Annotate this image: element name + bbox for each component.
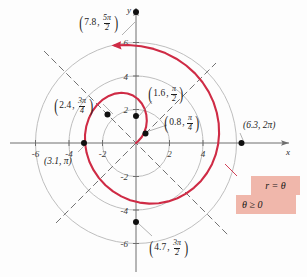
polar-plot-canvas: -6 -4 -2 2 4 6 4 2 -2 -4 -6 x y bbox=[0, 0, 307, 277]
fraction-numerator: 3π bbox=[77, 97, 87, 106]
label-theta-fraction: 5π 2 bbox=[101, 14, 113, 32]
point-0-8-pi-over-4 bbox=[143, 131, 149, 137]
equation-callout: r = θ θ ≥ 0 bbox=[236, 176, 300, 214]
point-label-3-1-pi: (3.1, π) bbox=[44, 157, 72, 167]
point-1-6-pi-over-2 bbox=[133, 113, 139, 119]
tick-label-y-4: 4 bbox=[124, 72, 129, 82]
fraction-denominator: 4 bbox=[79, 106, 85, 116]
label-open-paren: ( bbox=[148, 87, 152, 101]
label-r-value: 0.8 bbox=[169, 118, 182, 128]
callout-condition: θ ≥ 0 bbox=[236, 195, 296, 214]
label-close-paren: ) bbox=[195, 116, 199, 130]
point-label-0-8-pi-over-4: ( 0.8 , π 4 ) bbox=[163, 114, 200, 132]
tick-label-x--6: -6 bbox=[32, 149, 40, 159]
x-axis-label: x bbox=[285, 147, 290, 157]
label-theta-fraction: π 4 bbox=[186, 114, 194, 132]
label-r-value: 4.7 bbox=[154, 243, 167, 253]
point-label-7-8-5pi-over-2: ( 7.8 , 5π 2 ) bbox=[78, 14, 119, 32]
point-3-1-pi bbox=[81, 140, 87, 146]
label-theta-fraction: π 2 bbox=[170, 85, 178, 103]
tick-label-y--4: -4 bbox=[121, 206, 129, 216]
point-7-8-5pi-over-2 bbox=[133, 9, 139, 15]
point-label-4-7-3pi-over-2: ( 4.7 , 3π 2 ) bbox=[148, 239, 189, 257]
label-close-paren: ) bbox=[114, 16, 118, 30]
label-close-paren: ) bbox=[184, 241, 188, 255]
label-text: (6.3, 2π) bbox=[243, 121, 275, 131]
tick-label-y--6: -6 bbox=[121, 239, 129, 249]
fraction-numerator: π bbox=[171, 85, 177, 94]
fraction-denominator: 2 bbox=[174, 248, 180, 258]
label-text: (3.1, π) bbox=[44, 157, 72, 167]
label-close-paren: ) bbox=[89, 99, 93, 113]
polar-spiral-figure: -6 -4 -2 2 4 6 4 2 -2 -4 -6 x y bbox=[0, 0, 307, 277]
fraction-numerator: π bbox=[187, 114, 193, 123]
point-6-3-2pi bbox=[239, 140, 245, 146]
point-4-7-3pi-over-2 bbox=[133, 219, 139, 225]
point-label-1-6-pi-over-2: ( 1.6 , π 2 ) bbox=[147, 85, 184, 103]
tick-label-y-2: 2 bbox=[124, 105, 129, 115]
leader-line-4-7 bbox=[139, 224, 152, 236]
fraction-denominator: 2 bbox=[171, 94, 177, 104]
fraction-denominator: 4 bbox=[187, 123, 193, 133]
y-axis-label: y bbox=[126, 5, 131, 15]
spiral-end-arrowhead bbox=[112, 41, 122, 49]
label-open-paren: ( bbox=[79, 16, 83, 30]
leader-line-6-3 bbox=[240, 133, 243, 140]
label-close-paren: ) bbox=[179, 87, 183, 101]
label-open-paren: ( bbox=[54, 99, 58, 113]
fraction-denominator: 2 bbox=[104, 23, 110, 33]
leader-line-3-1 bbox=[78, 145, 85, 152]
tick-label-x-2: 2 bbox=[167, 149, 172, 159]
label-theta-fraction: 3π 4 bbox=[76, 97, 88, 115]
callout-equation: r = θ bbox=[251, 176, 300, 195]
point-label-6-3-2pi: (6.3, 2π) bbox=[243, 121, 275, 131]
label-r-value: 7.8 bbox=[84, 18, 97, 28]
label-r-value: 2.4 bbox=[59, 101, 72, 111]
point-label-2-4-3pi-over-4: ( 2.4 , 3π 4 ) bbox=[53, 97, 94, 115]
tick-label-y-6: 6 bbox=[124, 38, 129, 48]
label-theta-fraction: 3π 2 bbox=[171, 239, 183, 257]
tick-label-x-4: 4 bbox=[201, 149, 206, 159]
leader-line-7-8 bbox=[122, 22, 135, 35]
fraction-numerator: 5π bbox=[102, 14, 112, 23]
label-open-paren: ( bbox=[149, 241, 153, 255]
fraction-numerator: 3π bbox=[172, 239, 182, 248]
label-r-value: 1.6 bbox=[153, 89, 166, 99]
tick-label-y--2: -2 bbox=[121, 172, 129, 182]
tick-label-x--2: -2 bbox=[99, 149, 107, 159]
point-2-4-3pi-over-4 bbox=[105, 112, 111, 118]
label-open-paren: ( bbox=[164, 116, 168, 130]
